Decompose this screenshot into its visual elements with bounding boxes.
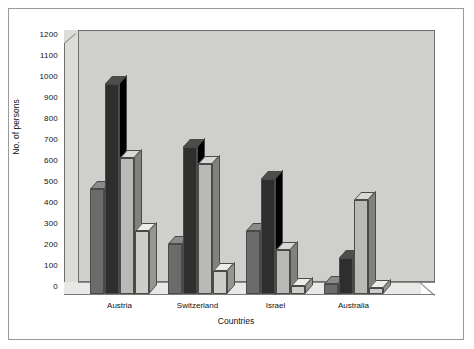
x-tick-switzerland: Switzerland — [177, 301, 218, 310]
bar-group-australia — [324, 42, 383, 294]
bar-switzerland-series-4 — [213, 271, 227, 294]
bar-switzerland-series-3 — [198, 164, 212, 294]
bar-side-face — [149, 222, 157, 294]
bar-austria-series-2 — [105, 84, 119, 294]
bar-front-face — [246, 231, 260, 294]
plot-left-wall — [64, 30, 79, 295]
y-tick-900: 900 — [44, 93, 58, 102]
y-tick-1200: 1200 — [39, 30, 58, 39]
y-tick-200: 200 — [44, 240, 58, 249]
bar-front-face — [369, 288, 383, 294]
bar-australia-series-1 — [324, 284, 338, 295]
bar-front-face — [135, 231, 149, 294]
bar-israel-series-3 — [276, 250, 290, 294]
y-tick-500: 500 — [44, 177, 58, 186]
bar-austria-series-3 — [120, 158, 134, 295]
bar-front-face — [276, 250, 290, 294]
y-axis-title: No. of persons — [11, 99, 21, 154]
x-axis-line — [64, 294, 435, 295]
bar-front-face — [168, 244, 182, 294]
y-tick-800: 800 — [44, 114, 58, 123]
bar-australia-series-3 — [354, 200, 368, 295]
bar-front-face — [261, 179, 275, 295]
bar-switzerland-series-1 — [168, 244, 182, 294]
plot-area — [64, 30, 435, 295]
x-axis-title: Countries — [218, 316, 254, 326]
bar-australia-series-4 — [369, 288, 383, 294]
bar-front-face — [90, 189, 104, 294]
bar-front-face — [213, 271, 227, 294]
bar-austria-series-1 — [90, 189, 104, 294]
y-tick-0: 0 — [53, 282, 58, 291]
bar-front-face — [120, 158, 134, 295]
bar-group-israel — [246, 42, 305, 294]
y-tick-1000: 1000 — [39, 72, 58, 81]
y-tick-400: 400 — [44, 198, 58, 207]
y-tick-100: 100 — [44, 261, 58, 270]
bar-group-switzerland — [168, 42, 227, 294]
bar-front-face — [183, 147, 197, 294]
chart-frame: No. of persons 0100200300400500600700800… — [8, 8, 464, 340]
bar-front-face — [354, 200, 368, 295]
y-tick-700: 700 — [44, 135, 58, 144]
bar-side-face — [368, 190, 376, 294]
y-tick-600: 600 — [44, 156, 58, 165]
bar-group-austria — [90, 42, 149, 294]
x-tick-australia: Australia — [338, 301, 369, 310]
bar-israel-series-4 — [291, 286, 305, 294]
y-tick-1100: 1100 — [40, 51, 58, 60]
x-tick-israel: Israel — [266, 301, 286, 310]
bar-israel-series-1 — [246, 231, 260, 294]
y-tick-300: 300 — [44, 219, 58, 228]
bar-israel-series-2 — [261, 179, 275, 295]
bar-front-face — [324, 284, 338, 295]
bar-australia-series-2 — [339, 258, 353, 294]
bar-switzerland-series-2 — [183, 147, 197, 294]
bar-front-face — [291, 286, 305, 294]
bar-front-face — [339, 258, 353, 294]
bar-front-face — [105, 84, 119, 294]
x-tick-austria: Austria — [107, 301, 132, 310]
bar-front-face — [198, 164, 212, 294]
bar-austria-series-4 — [135, 231, 149, 294]
y-axis: No. of persons 0100200300400500600700800… — [9, 9, 64, 296]
